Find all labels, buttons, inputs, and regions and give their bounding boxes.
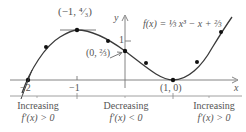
y-tick-label-1: 1 xyxy=(119,34,124,45)
point-max xyxy=(75,28,79,32)
region-derivative: f′(x) < 0 xyxy=(96,112,156,124)
equation-label: f(x) = ⅓ x³ − x + ⅔ xyxy=(143,18,222,29)
region-derivative: f′(x) > 0 xyxy=(10,112,66,124)
region-decreasing: Decreasing f′(x) < 0 xyxy=(96,100,156,124)
min-point-label: (1, 0) xyxy=(160,82,182,93)
region-label: Increasing xyxy=(10,100,66,112)
curve-points xyxy=(26,28,223,82)
region-derivative: f′(x) > 0 xyxy=(186,112,242,124)
x-axis-label: x xyxy=(234,82,238,93)
region-label: Decreasing xyxy=(96,100,156,112)
x-tick-label-neg1: −1 xyxy=(69,82,80,93)
x-tick-label-neg2: −2 xyxy=(20,82,31,93)
region-increasing-right: Increasing f′(x) > 0 xyxy=(186,100,242,124)
max-point-label: (−1, ⁴⁄₃) xyxy=(58,5,92,17)
point-x-1.5 xyxy=(195,60,199,64)
y-intercept-label: (0, ⅔) xyxy=(86,47,110,58)
y-axis-label: y xyxy=(114,12,118,23)
point-x-0.5 xyxy=(144,61,148,65)
point-x-neg1.5 xyxy=(44,45,48,49)
point-y-intercept xyxy=(123,49,127,53)
point-x-neg0.5 xyxy=(106,39,110,43)
point-x-2 xyxy=(219,30,223,34)
region-increasing-left: Increasing f′(x) > 0 xyxy=(10,100,66,124)
region-label: Increasing xyxy=(186,100,242,112)
